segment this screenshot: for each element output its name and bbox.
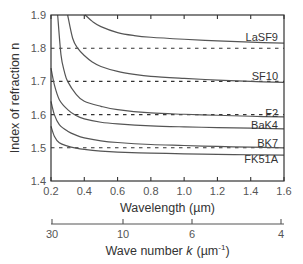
y-tick-label: 1.7 [31,75,46,87]
series-label-bak4: BaK4 [251,119,278,131]
y-axis-title: Index of refraction n [8,43,22,154]
k-tick-label: 30 [46,228,58,240]
curve-fk51a [51,126,284,155]
y-axis-ticks: 1.41.51.61.71.81.9 [31,9,46,187]
wavenumber-title-unit: (µm [197,244,219,258]
k-tick-label: 6 [189,228,195,240]
x-tick-label: 0.4 [77,185,92,197]
x-tick-label: 1.4 [243,185,258,197]
x-tick-label: 1.0 [176,185,191,197]
x-tick-label: 0.6 [110,185,125,197]
series-label-sf10: SF10 [252,70,278,82]
k-tick-label: 4 [278,228,284,240]
series-label-bk7: BK7 [257,137,278,149]
x-axis-title: Wavelength (µm) [120,201,215,215]
series-labels: LaSF9SF10F2BaK4BK7FK51A [244,31,278,166]
x-tick-label: 1.2 [210,185,225,197]
wavenumber-axis-title: Wave number k(µm-1) [105,243,229,258]
x-tick-label: 1.6 [276,185,291,197]
y-axis-title-text: Index of refraction n [8,43,22,154]
y-tick-label: 1.9 [31,9,46,21]
series-label-f2: F2 [265,107,278,119]
curve-bk7 [51,101,284,147]
wavenumber-title-var: k [186,244,193,258]
wavenumber-axis-ticks: 301064 [46,219,284,240]
k-tick-label: 10 [117,228,129,240]
y-tick-label: 1.5 [31,142,46,154]
reference-dashed-lines [51,48,284,148]
wavenumber-title-prefix: Wave number [105,244,186,258]
y-tick-label: 1.8 [31,42,46,54]
y-tick-label: 1.6 [31,109,46,121]
wavenumber-title-close: ) [225,244,229,258]
series-label-fk51a: FK51A [244,153,278,165]
x-tick-label: 0.8 [143,185,158,197]
dispersion-chart: 0.20.40.60.81.01.21.41.6 1.41.51.61.71.8… [0,0,303,264]
y-tick-label: 1.4 [31,175,46,187]
series-label-lasf9: LaSF9 [246,31,278,43]
